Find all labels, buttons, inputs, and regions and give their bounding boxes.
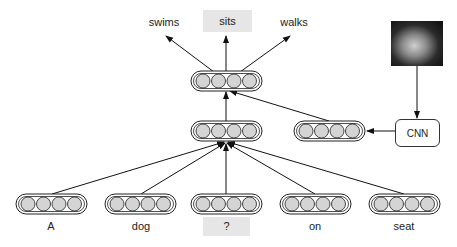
- image-feature-vector-node: [294, 121, 365, 141]
- diagram-canvas: [0, 0, 457, 247]
- dog-image: [391, 21, 443, 66]
- input-label-seat: seat: [379, 217, 429, 236]
- hidden-edges: [226, 91, 329, 121]
- hidden-vector-node: [191, 121, 262, 141]
- input-vector-node-1: [105, 194, 176, 214]
- output-label-walks: walks: [270, 13, 318, 31]
- input-vector-node-2: [191, 194, 262, 214]
- cnn-box: CNN: [395, 119, 440, 147]
- input-label-unknown-highlighted: ?: [203, 217, 250, 236]
- input-label-on: on: [290, 217, 340, 236]
- input-vector-node-4: [369, 194, 440, 214]
- output-label-sits-highlighted: sits: [203, 10, 252, 32]
- input-edges: [52, 142, 404, 194]
- input-label-dog: dog: [116, 217, 166, 236]
- input-label-a: A: [26, 217, 76, 236]
- output-label-swims: swims: [140, 13, 188, 31]
- output-edges: [166, 36, 290, 72]
- input-vector-node-0: [16, 194, 87, 214]
- output-vector-node: [191, 71, 262, 91]
- input-vector-node-3: [280, 194, 351, 214]
